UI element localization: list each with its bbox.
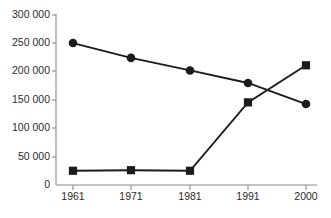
- y-tick-label-0: 0: [44, 178, 50, 190]
- x-axis-tick-labels: 1961 1971 1981 1991 2000: [61, 190, 318, 202]
- x-tick-label-1981: 1981: [178, 190, 202, 202]
- series-declining-series: [69, 39, 311, 109]
- data-point-circle-2000: [302, 100, 311, 109]
- data-point-circle-1971: [127, 54, 136, 63]
- x-tick-label-2000: 2000: [294, 190, 318, 202]
- x-tick-label-1961: 1961: [61, 190, 85, 202]
- data-point-circle-1961: [69, 39, 78, 48]
- y-tick-label-200000: 200 000: [12, 64, 50, 76]
- series-line-rising-series: [73, 65, 306, 170]
- y-tick-label-150000: 150 000: [12, 93, 50, 105]
- chart-canvas: 300 000 250 000 200 000 150 000 100 000 …: [0, 0, 331, 218]
- data-point-square-2000: [302, 61, 310, 69]
- data-point-square-1971: [127, 166, 135, 174]
- y-tick-label-100000: 100 000: [12, 121, 50, 133]
- data-point-square-1981: [186, 167, 194, 175]
- plot-series-layer: [69, 39, 311, 175]
- y-axis-tick-marks: [52, 15, 56, 157]
- data-point-square-1961: [69, 167, 77, 175]
- line-chart: 300 000 250 000 200 000 150 000 100 000 …: [0, 0, 331, 218]
- y-axis-tick-labels: 300 000 250 000 200 000 150 000 100 000 …: [12, 8, 50, 190]
- x-tick-label-1971: 1971: [119, 190, 143, 202]
- y-tick-label-300000: 300 000: [12, 8, 50, 20]
- y-tick-label-50000: 50 000: [18, 150, 50, 162]
- data-point-square-1991: [244, 98, 252, 106]
- series-rising-series: [69, 61, 310, 175]
- data-point-circle-1991: [244, 79, 253, 88]
- y-tick-label-250000: 250 000: [12, 36, 50, 48]
- data-point-circle-1981: [186, 66, 195, 75]
- x-tick-label-1991: 1991: [236, 190, 260, 202]
